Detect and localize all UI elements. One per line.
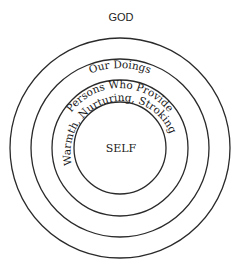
ring-label-our-doings: Our Doings [87, 58, 153, 76]
self-label: SELF [106, 142, 137, 155]
concentric-circles-diagram: GOD Our Doings Persons Who Provide Warmt… [0, 0, 242, 276]
god-label: GOD [108, 11, 133, 23]
